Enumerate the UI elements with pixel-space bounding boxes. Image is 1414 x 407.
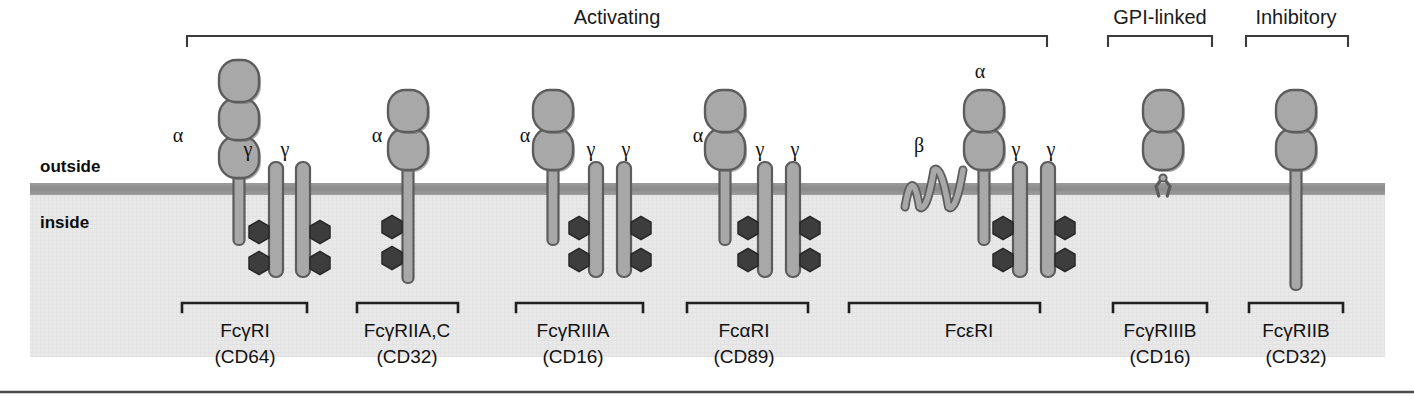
fc-gamma-riib-alpha-ig-domain-2-body bbox=[1276, 128, 1316, 170]
fc-gamma-riiia-gamma-1-itam-2 bbox=[569, 249, 589, 272]
fc-epsilon-ri-alpha-ig-domain-1 bbox=[964, 90, 1006, 134]
fc-gamma-riiib-name-label: FcγRIIIB bbox=[1124, 320, 1197, 341]
fc-alpha-ri-alpha-ig-domain-2 bbox=[705, 128, 747, 172]
fc-gamma-riiia-alpha-ig-domain-2 bbox=[533, 128, 575, 172]
fc-alpha-ri-cd-label: (CD89) bbox=[713, 346, 774, 367]
fc-gamma-riiia-gamma-subunit-label-1: γ bbox=[586, 138, 596, 161]
fc-gamma-riib-name-label: FcγRIIB bbox=[1262, 320, 1330, 341]
fc-gamma-ri-name-label: FcγRI bbox=[220, 320, 270, 341]
fc-gamma-riia-c-alpha-stalk bbox=[403, 160, 414, 283]
fc-gamma-riib-alpha-ig-domain-1 bbox=[1276, 90, 1318, 134]
fc-epsilon-ri-alpha-ig-domain-2 bbox=[964, 128, 1006, 172]
fc-gamma-ri-gamma-1-itam-1 bbox=[249, 221, 269, 244]
fc-gamma-riia-c-alpha-itam-left-1 bbox=[382, 216, 402, 239]
fc-gamma-riiia-gamma-subunit-label-2: γ bbox=[621, 138, 631, 161]
group-header-inhibitory: Inhibitory bbox=[1255, 6, 1336, 28]
fc-epsilon-ri-gamma-subunit-label-2: γ bbox=[1046, 138, 1056, 161]
fc-gamma-ri-gamma-subunit-label-2: γ bbox=[280, 138, 290, 161]
fc-gamma-ri-gamma-subunit-label-1: γ bbox=[243, 138, 253, 161]
fc-alpha-ri-gamma-1-itam-2 bbox=[738, 249, 758, 272]
fc-gamma-riib-alpha-ig-domain-2 bbox=[1276, 128, 1318, 172]
diagram-canvas: αγγFcγRI(CD64)αFcγRIIA,C(CD32)αγγFcγRIII… bbox=[0, 0, 1414, 407]
fc-gamma-riia-c-cd-label: (CD32) bbox=[376, 346, 437, 367]
fc-gamma-ri-gamma-2-itam-1 bbox=[310, 221, 330, 244]
fc-gamma-ri-cd-label: (CD64) bbox=[214, 346, 275, 367]
inside-label: inside bbox=[40, 213, 89, 232]
fc-alpha-ri-gamma-subunit-label-2: γ bbox=[790, 138, 800, 161]
fc-epsilon-ri-gamma-rod-2 bbox=[1041, 162, 1055, 277]
fc-epsilon-ri-alpha-ig-domain-1-body bbox=[964, 90, 1004, 132]
fc-gamma-ri-gamma-rod-1 bbox=[269, 162, 283, 277]
fc-gamma-ri-alpha-stalk bbox=[234, 172, 245, 245]
fc-gamma-riia-c-alpha-subunit-label: α bbox=[372, 124, 383, 146]
fc-epsilon-ri-gamma-subunit-label-1: γ bbox=[1011, 138, 1021, 161]
fc-gamma-riia-c-alpha-ig-domain-1-body bbox=[388, 90, 428, 132]
fc-epsilon-ri-alpha-stalk bbox=[979, 160, 990, 245]
fc-receptor-diagram: αγγFcγRI(CD64)αFcγRIIA,C(CD32)αγγFcγRIII… bbox=[0, 0, 1414, 407]
fc-alpha-ri-alpha-stalk bbox=[720, 160, 731, 245]
fc-gamma-ri-alpha-ig-domain-3-body bbox=[219, 136, 259, 178]
fc-gamma-riiib-alpha-ig-domain-1-body bbox=[1143, 90, 1183, 132]
fc-epsilon-ri-name-label: FcεRI bbox=[945, 320, 994, 341]
fc-gamma-riiia-cd-label: (CD16) bbox=[542, 346, 603, 367]
fc-gamma-ri-alpha-ig-domain-1-body bbox=[219, 60, 259, 102]
fc-alpha-ri-gamma-rod-1 bbox=[758, 162, 772, 277]
fc-epsilon-ri-gamma-1-itam-1 bbox=[993, 217, 1013, 240]
fc-gamma-riiia-name-label: FcγRIIIA bbox=[537, 320, 610, 341]
fc-epsilon-ri-alpha-ig-domain-2-body bbox=[964, 128, 1004, 170]
fc-gamma-riiia-alpha-subunit-label: α bbox=[520, 124, 531, 146]
fc-gamma-riib-cd-label: (CD32) bbox=[1265, 346, 1326, 367]
fc-gamma-riiia-alpha-ig-domain-1 bbox=[533, 90, 575, 134]
fc-gamma-ri-alpha-ig-domain-3 bbox=[219, 136, 261, 180]
fc-gamma-riiia-gamma-2-itam-1 bbox=[631, 217, 651, 240]
fc-gamma-riia-c-alpha-ig-domain-2-body bbox=[388, 128, 428, 170]
fc-gamma-ri-alpha-subunit-label: α bbox=[173, 124, 184, 146]
fc-alpha-ri-alpha-subunit-label: α bbox=[693, 124, 704, 146]
fc-gamma-ri-gamma-1-itam-2 bbox=[249, 252, 269, 275]
fc-gamma-riia-c-alpha-itam-left-2 bbox=[382, 247, 402, 270]
fc-alpha-ri-alpha-ig-domain-2-body bbox=[705, 128, 745, 170]
fc-gamma-ri-alpha-ig-domain-1 bbox=[219, 60, 261, 104]
fc-alpha-ri-gamma-rod-2 bbox=[786, 162, 800, 277]
fc-gamma-riiia-alpha-ig-domain-2-body bbox=[533, 128, 573, 170]
group-header-activating: Activating bbox=[574, 6, 661, 28]
fc-gamma-riib-alpha-ig-domain-1-body bbox=[1276, 90, 1316, 132]
fc-alpha-ri-gamma-1-itam-1 bbox=[738, 217, 758, 240]
fc-gamma-riia-c-alpha-ig-domain-2 bbox=[388, 128, 430, 172]
fc-gamma-riiib-alpha-ig-domain-1 bbox=[1143, 90, 1185, 134]
fc-alpha-ri-alpha-ig-domain-1-body bbox=[705, 90, 745, 132]
fc-gamma-riiia-gamma-2-itam-2 bbox=[631, 249, 651, 272]
fc-gamma-riiib-alpha-ig-domain-2 bbox=[1143, 128, 1185, 172]
fc-gamma-ri-gamma-rod-2 bbox=[296, 162, 310, 277]
fc-gamma-riiia-alpha-stalk bbox=[548, 160, 559, 245]
group-header-gpi-linked: GPI-linked bbox=[1113, 6, 1206, 28]
fc-gamma-riib-alpha-stalk bbox=[1291, 160, 1302, 290]
fc-epsilon-ri-alpha-subunit-label: α bbox=[975, 60, 986, 82]
fc-gamma-riiib-gpi-head bbox=[1159, 174, 1166, 181]
fc-epsilon-ri-gamma-2-itam-2 bbox=[1055, 249, 1075, 272]
fc-epsilon-ri-gamma-rod-1 bbox=[1013, 162, 1027, 277]
fc-gamma-riiib-cd-label: (CD16) bbox=[1129, 346, 1190, 367]
fc-epsilon-ri-beta-subunit-label: β bbox=[914, 134, 924, 157]
fc-alpha-ri-alpha-ig-domain-1 bbox=[705, 90, 747, 134]
outside-label: outside bbox=[40, 157, 100, 176]
fc-epsilon-ri-gamma-1-itam-2 bbox=[993, 249, 1013, 272]
fc-gamma-riia-c-name-label: FcγRIIA,C bbox=[364, 320, 451, 341]
fc-gamma-riia-c-alpha-ig-domain-1 bbox=[388, 90, 430, 134]
fc-epsilon-ri-gamma-2-itam-1 bbox=[1055, 217, 1075, 240]
fc-gamma-riiia-gamma-rod-1 bbox=[589, 162, 603, 277]
fc-alpha-ri-gamma-2-itam-1 bbox=[800, 217, 820, 240]
fc-gamma-ri-alpha-ig-domain-2 bbox=[219, 98, 261, 142]
fc-gamma-riiia-gamma-rod-2 bbox=[617, 162, 631, 277]
fc-gamma-ri-gamma-2-itam-2 bbox=[310, 252, 330, 275]
fc-alpha-ri-name-label: FcαRI bbox=[718, 320, 769, 341]
fc-alpha-ri-gamma-subunit-label-1: γ bbox=[755, 138, 765, 161]
fc-gamma-riiia-gamma-1-itam-1 bbox=[569, 217, 589, 240]
fc-alpha-ri-gamma-2-itam-2 bbox=[800, 249, 820, 272]
fc-gamma-riiib-alpha-ig-domain-2-body bbox=[1143, 128, 1183, 170]
fc-gamma-riiia-alpha-ig-domain-1-body bbox=[533, 90, 573, 132]
fc-gamma-ri-alpha-ig-domain-2-body bbox=[219, 98, 259, 140]
